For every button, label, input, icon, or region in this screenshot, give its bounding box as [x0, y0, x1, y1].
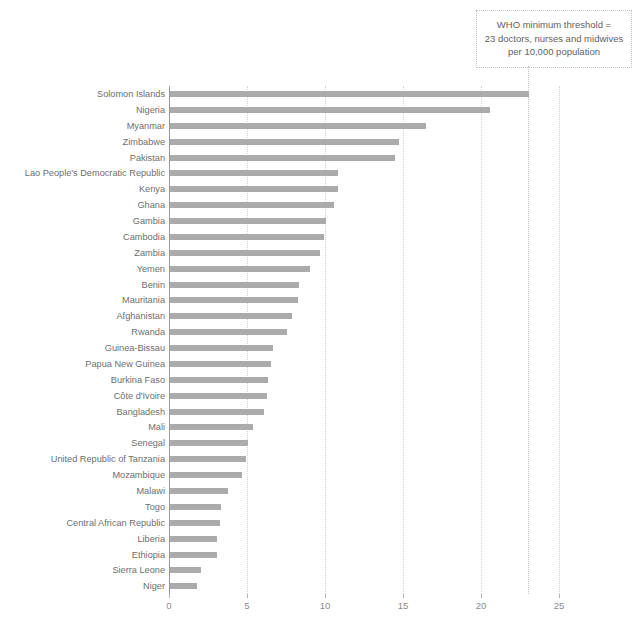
category-label: Nigeria — [136, 102, 165, 119]
bar — [170, 234, 324, 240]
category-label: Rwanda — [131, 324, 165, 341]
bar — [170, 440, 248, 446]
category-label: Afghanistan — [116, 308, 165, 325]
horizontal-bar-chart: WHO minimum threshold = 23 doctors, nurs… — [0, 0, 642, 633]
bar — [170, 424, 253, 430]
bar — [170, 456, 246, 462]
bar — [170, 409, 264, 415]
bar-row — [169, 86, 530, 103]
x-tick-mark-0 — [169, 594, 170, 598]
bar — [170, 155, 395, 161]
bar — [170, 393, 267, 399]
x-tick-mark-25 — [559, 594, 560, 598]
category-label: Liberia — [137, 531, 165, 548]
plot-area — [169, 86, 589, 594]
category-label: Ethiopia — [132, 547, 165, 564]
bar — [170, 107, 490, 113]
x-tick-mark-20 — [481, 594, 482, 598]
x-tick-label: 5 — [244, 600, 249, 611]
bar-row — [169, 388, 268, 405]
bar-row — [169, 356, 272, 373]
gridline-20 — [481, 86, 482, 594]
bar — [170, 504, 221, 510]
gridline-15 — [403, 86, 404, 594]
callout-line-2: 23 doctors, nurses and midwives — [481, 32, 627, 46]
bar — [170, 250, 320, 256]
category-label: Côte d'Ivoire — [114, 388, 165, 405]
bar-row — [169, 229, 325, 246]
bar — [170, 520, 220, 526]
category-label: Central African Republic — [66, 515, 165, 532]
bar-row — [169, 118, 427, 135]
category-label: Mali — [148, 419, 165, 436]
category-label: United Republic of Tanzania — [51, 451, 165, 468]
bar — [170, 567, 201, 573]
bar — [170, 329, 287, 335]
category-label: Kenya — [139, 181, 165, 198]
bar — [170, 123, 426, 129]
bar — [170, 297, 298, 303]
bar — [170, 218, 326, 224]
bar — [170, 202, 334, 208]
bar — [170, 536, 217, 542]
bar — [170, 170, 338, 176]
x-tick-label: 20 — [476, 600, 487, 611]
x-tick-mark-5 — [247, 594, 248, 598]
gridline-25 — [559, 86, 560, 594]
category-label: Cambodia — [123, 229, 165, 246]
bar-row — [169, 277, 300, 294]
bar — [170, 361, 271, 367]
bar — [170, 139, 399, 145]
bar-row — [169, 578, 198, 595]
bar-row — [169, 261, 311, 278]
bar — [170, 266, 310, 272]
callout-line-3: per 10,000 population — [481, 45, 627, 59]
category-label: Niger — [143, 578, 165, 595]
category-label: Benin — [142, 277, 166, 294]
bar — [170, 313, 292, 319]
bar-row — [169, 308, 293, 325]
bar-row — [169, 340, 274, 357]
bar-row — [169, 324, 288, 341]
bar-row — [169, 134, 400, 151]
category-label: Gambia — [133, 213, 165, 230]
x-tick-label: 25 — [554, 600, 565, 611]
bar — [170, 186, 338, 192]
bar-row — [169, 531, 218, 548]
bar-row — [169, 451, 247, 468]
category-label: Bangladesh — [116, 404, 165, 421]
x-tick-label: 10 — [320, 600, 331, 611]
category-label: Yemen — [137, 261, 165, 278]
bar-row — [169, 467, 243, 484]
bar-row — [169, 419, 254, 436]
category-label: Sierra Leone — [112, 562, 165, 579]
category-label: Zimbabwe — [123, 134, 165, 151]
bar — [170, 552, 217, 558]
bar — [170, 488, 228, 494]
category-label: Papua New Guinea — [85, 356, 165, 373]
category-label: Burkina Faso — [111, 372, 165, 389]
bar-row — [169, 197, 335, 214]
bar — [170, 583, 197, 589]
bar-row — [169, 372, 269, 389]
category-label: Ghana — [137, 197, 165, 214]
category-label: Guinea-Bissau — [105, 340, 165, 357]
bar-row — [169, 562, 202, 579]
bar-row — [169, 102, 491, 119]
category-label: Myanmar — [127, 118, 165, 135]
bar — [170, 377, 268, 383]
bar — [170, 282, 299, 288]
x-tick-label: 15 — [398, 600, 409, 611]
who-threshold-callout: WHO minimum threshold = 23 doctors, nurs… — [476, 10, 632, 68]
x-tick-mark-10 — [325, 594, 326, 598]
bar — [170, 472, 242, 478]
bar-row — [169, 547, 218, 564]
bar-row — [169, 499, 222, 516]
bar-row — [169, 483, 229, 500]
category-label: Mauritania — [122, 292, 165, 309]
category-label: Malawi — [136, 483, 165, 500]
category-label: Senegal — [131, 435, 165, 452]
bar-row — [169, 165, 339, 182]
x-tick-mark-15 — [403, 594, 404, 598]
bar-row — [169, 181, 339, 198]
